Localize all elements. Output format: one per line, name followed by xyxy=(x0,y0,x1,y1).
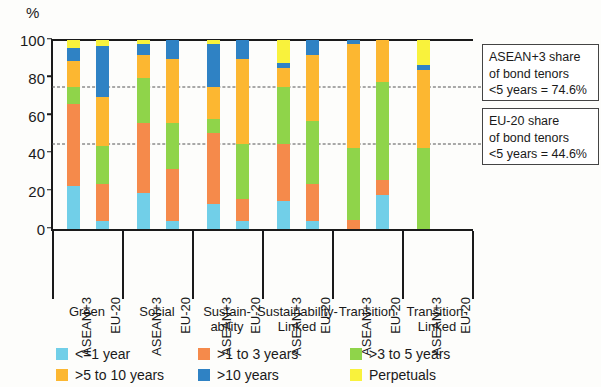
legend-color-swatch xyxy=(56,348,68,360)
bar-segment xyxy=(306,40,319,55)
y-axis-unit-label: % xyxy=(26,4,40,21)
bar-segment xyxy=(306,121,319,183)
bar-segment xyxy=(96,46,109,97)
bar-segment xyxy=(277,87,290,144)
bar-social-eu20 xyxy=(166,40,179,229)
x-axis-group-separator xyxy=(122,231,124,299)
bar-segment xyxy=(417,70,430,147)
x-axis-group-label: Transition xyxy=(327,305,407,320)
bar-segment xyxy=(417,40,430,65)
annotation-asean3-line3: <5 years = 74.6% xyxy=(489,82,593,99)
bar-segment xyxy=(236,144,249,199)
x-axis-group-label-line: ability xyxy=(187,320,267,335)
x-axis-group-label-line: Social xyxy=(117,305,197,320)
bar-transition-asean3 xyxy=(347,40,360,229)
x-axis-group-separator xyxy=(192,231,194,299)
annotation-eu20-line3: <5 years = 44.6% xyxy=(489,146,593,163)
bar-segment xyxy=(417,148,430,229)
bar-segment xyxy=(306,184,319,222)
y-axis-tick-mark xyxy=(47,38,52,40)
legend-item: >5 to 10 years xyxy=(56,367,198,383)
annotation-asean3-line1: ASEAN+3 share xyxy=(489,49,593,66)
x-axis-group-label: Green xyxy=(47,305,127,320)
bar-segment xyxy=(347,148,360,220)
bar-sustainabilitylinked-asean3 xyxy=(277,40,290,229)
bar-segment xyxy=(376,195,389,229)
bar-segment xyxy=(137,78,150,123)
chart-legend: <=1 year>1 to 3 years>3 to 5 years>5 to … xyxy=(56,343,476,385)
bar-segment xyxy=(166,59,179,123)
legend-color-swatch xyxy=(198,348,210,360)
plot-area: 020406080100 xyxy=(52,40,472,229)
bar-segment xyxy=(207,119,220,132)
y-axis-tick-label: 40 xyxy=(28,146,45,161)
bar-segment xyxy=(67,186,80,229)
bar-segment xyxy=(376,180,389,195)
bar-segment xyxy=(236,221,249,229)
y-axis-tick-mark xyxy=(47,151,52,153)
legend-label: >3 to 5 years xyxy=(369,346,450,362)
legend-color-swatch xyxy=(350,348,362,360)
bar-segment xyxy=(376,40,389,82)
legend-item: Perpetuals xyxy=(350,367,476,383)
x-axis-group-label-line: Transition xyxy=(327,305,407,320)
y-axis-tick-mark xyxy=(47,113,52,115)
bar-segment xyxy=(166,169,179,222)
annotation-eu20-line2: of bond tenors xyxy=(489,130,593,147)
bar-segment xyxy=(137,44,150,55)
bar-segment xyxy=(306,221,319,229)
x-axis-group-label: Sustainability-Linked xyxy=(257,305,337,335)
x-axis-group-label-line: Transition- xyxy=(397,305,477,320)
bar-segment xyxy=(347,44,360,148)
bar-segment xyxy=(67,104,80,185)
bar-segment xyxy=(207,204,220,229)
x-axis-labels: ASEAN+3EU-20ASEAN+3EU-20ASEAN+3EU-20ASEA… xyxy=(52,231,472,331)
x-axis-group-separator xyxy=(332,231,334,299)
bar-segment xyxy=(236,40,249,59)
x-axis-group-label-line: Linked xyxy=(397,320,477,335)
bar-segment xyxy=(277,68,290,87)
bar-segment xyxy=(137,55,150,78)
legend-label: >5 to 10 years xyxy=(75,367,164,383)
bar-segment xyxy=(277,40,290,63)
bar-segment xyxy=(376,82,389,180)
legend-label: >1 to 3 years xyxy=(217,346,298,362)
bar-segment xyxy=(306,55,319,121)
annotation-eu20-share: EU-20 share of bond tenors <5 years = 44… xyxy=(482,108,599,165)
bar-sustainabilitylinked-eu20 xyxy=(306,40,319,229)
bar-segment xyxy=(236,59,249,144)
bar-social-asean3 xyxy=(137,40,150,229)
legend-label: >10 years xyxy=(217,367,279,383)
bar-segment xyxy=(96,184,109,222)
bar-green-asean3 xyxy=(67,40,80,229)
bar-segment xyxy=(207,87,220,119)
bar-segment xyxy=(67,61,80,87)
x-axis-group-label: Social xyxy=(117,305,197,320)
y-axis-tick-label: 20 xyxy=(28,184,45,199)
legend-color-swatch xyxy=(350,369,362,381)
bar-segment xyxy=(96,146,109,184)
y-axis-tick-mark xyxy=(47,189,52,191)
y-axis-tick-label: 60 xyxy=(28,108,45,123)
x-axis-group-label-line: Green xyxy=(47,305,127,320)
bar-segment xyxy=(166,221,179,229)
stacked-bar-chart: % 020406080100 ASEAN+3EU-20ASEAN+3EU-20A… xyxy=(0,0,601,387)
x-axis-group-label-line: Sustainability- xyxy=(257,305,337,320)
bar-segment xyxy=(207,44,220,87)
bar-segment xyxy=(67,87,80,104)
bar-segment xyxy=(96,97,109,146)
bar-segment xyxy=(347,220,360,229)
bar-segment xyxy=(67,40,80,48)
legend-label: Perpetuals xyxy=(369,367,436,383)
x-axis-group-label-line: Sustain- xyxy=(187,305,267,320)
bar-transition-eu20 xyxy=(376,40,389,229)
x-axis-group-separator xyxy=(402,231,404,299)
legend-label: <=1 year xyxy=(75,346,130,362)
bar-sustainability-eu20 xyxy=(236,40,249,229)
bar-transitionlinked-asean3 xyxy=(417,40,430,229)
legend-color-swatch xyxy=(198,369,210,381)
y-axis-tick-mark xyxy=(47,227,52,229)
bar-segment xyxy=(96,221,109,229)
legend-item: >1 to 3 years xyxy=(198,346,350,362)
bar-segment xyxy=(207,133,220,205)
